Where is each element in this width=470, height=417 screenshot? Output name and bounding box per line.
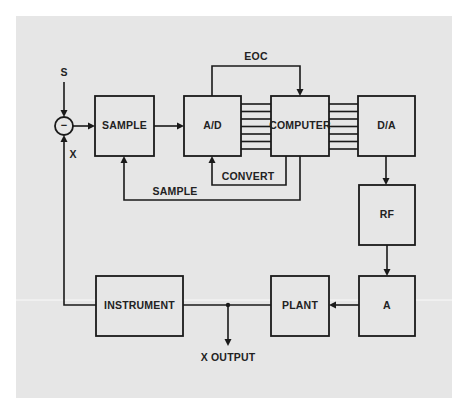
arrowhead-icon: [384, 269, 391, 276]
block-sample: SAMPLE: [95, 96, 154, 156]
arrowhead-icon: [297, 89, 304, 96]
arrowhead-icon: [329, 302, 336, 309]
eoc-wire: [212, 66, 300, 96]
block-instrument-label: INSTRUMENT: [104, 299, 175, 311]
block-diagram: S − SAMPLE A/D COMPUTER: [0, 0, 470, 417]
arrowhead-icon: [61, 135, 68, 142]
block-ad-label: A/D: [203, 119, 222, 131]
block-ad: A/D: [184, 96, 241, 156]
block-da: D/A: [358, 96, 415, 156]
arrowhead-icon: [61, 110, 68, 117]
block-a: A: [359, 276, 415, 336]
setpoint-label: S: [60, 66, 67, 78]
convert-label: CONVERT: [222, 170, 275, 182]
sample-control-label: SAMPLE: [153, 185, 198, 197]
block-rf-label: RF: [380, 208, 395, 220]
block-rf: RF: [359, 185, 415, 245]
arrowhead-icon: [225, 339, 232, 346]
block-computer: COMPUTER: [269, 96, 331, 156]
block-da-label: D/A: [377, 119, 396, 131]
block-sample-label: SAMPLE: [102, 119, 147, 131]
arrowhead-icon: [88, 123, 95, 130]
block-computer-label: COMPUTER: [269, 119, 331, 131]
feedback-wire: [64, 141, 96, 305]
minus-sign: −: [61, 119, 68, 131]
bus-computer-da: [329, 104, 358, 149]
arrowhead-icon: [121, 156, 128, 163]
eoc-label: EOC: [244, 50, 268, 62]
feedback-label: X: [69, 148, 76, 160]
output-label: X OUTPUT: [201, 351, 256, 363]
block-plant: PLANT: [271, 276, 329, 336]
block-instrument: INSTRUMENT: [96, 276, 183, 336]
bus-ad-computer: [241, 104, 271, 149]
summing-junction: −: [55, 117, 73, 135]
arrowhead-icon: [209, 156, 216, 163]
arrowhead-icon: [177, 123, 184, 130]
arrowhead-icon: [383, 178, 390, 185]
block-a-label: A: [383, 299, 391, 311]
block-plant-label: PLANT: [282, 299, 318, 311]
